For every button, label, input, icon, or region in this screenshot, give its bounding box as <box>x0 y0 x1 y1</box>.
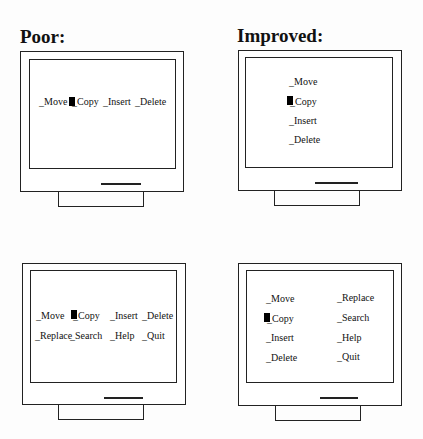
menu-item-help[interactable]: _Help <box>110 330 134 342</box>
monitor-screen <box>30 270 177 383</box>
menu-item-replace[interactable]: _Replace <box>337 292 374 304</box>
heading-poor: Poor: <box>20 27 65 47</box>
monitor-stand <box>275 405 361 421</box>
menu-item-move[interactable]: _Move <box>266 293 294 305</box>
menu-item-move[interactable]: _Move <box>39 96 67 108</box>
menu-item-quit[interactable]: _Quit <box>337 351 360 363</box>
monitor-stand <box>58 191 144 207</box>
monitor-indicator-line <box>104 397 143 399</box>
menu-item-insert[interactable]: _Insert <box>266 332 294 344</box>
menu-item-replace[interactable]: _Replace <box>35 330 72 342</box>
menu-item-copy[interactable]: _Copy <box>267 313 294 325</box>
monitor-screen <box>29 59 176 169</box>
menu-item-delete[interactable]: _Delete <box>289 134 320 146</box>
monitor-indicator-line <box>320 397 358 399</box>
menu-item-move[interactable]: _Move <box>36 310 64 322</box>
menu-item-delete[interactable]: _Delete <box>142 310 173 322</box>
menu-item-insert[interactable]: _Insert <box>110 310 138 322</box>
menu-item-copy[interactable]: _Copy <box>73 310 100 322</box>
menu-item-insert[interactable]: _Insert <box>103 96 131 108</box>
monitor-indicator-line <box>315 182 358 184</box>
monitor-stand <box>274 190 360 206</box>
monitor-screen <box>245 57 393 168</box>
menu-item-search[interactable]: _Search <box>337 312 369 324</box>
menu-item-copy[interactable]: _Copy <box>290 96 317 108</box>
menu-item-help[interactable]: _Help <box>337 332 361 344</box>
menu-item-delete[interactable]: _Delete <box>135 96 166 108</box>
monitor-indicator-line <box>101 183 141 185</box>
menu-item-search[interactable]: _Search <box>70 330 102 342</box>
heading-improved: Improved: <box>237 26 323 46</box>
monitor-screen <box>246 270 394 383</box>
monitor-stand <box>58 404 144 420</box>
menu-item-insert[interactable]: _Insert <box>289 115 317 127</box>
menu-item-quit[interactable]: _Quit <box>142 330 165 342</box>
menu-item-move[interactable]: _Move <box>289 76 317 88</box>
menu-item-delete[interactable]: _Delete <box>266 352 297 364</box>
menu-item-copy[interactable]: _Copy <box>72 96 99 108</box>
